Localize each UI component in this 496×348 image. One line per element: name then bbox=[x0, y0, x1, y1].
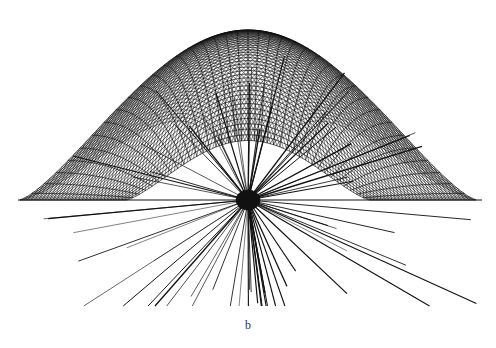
ray bbox=[239, 200, 248, 306]
ray bbox=[84, 200, 248, 306]
ray bbox=[213, 200, 248, 290]
ray bbox=[248, 200, 430, 306]
ray bbox=[248, 200, 471, 220]
ray bbox=[248, 200, 406, 265]
ray bbox=[78, 200, 248, 261]
ray bbox=[191, 200, 248, 297]
ray bbox=[248, 200, 395, 233]
ray bbox=[155, 200, 248, 306]
caustic-mesh-figure bbox=[0, 0, 496, 348]
ray bbox=[132, 177, 248, 200]
panel-label: b bbox=[0, 318, 496, 333]
ray bbox=[123, 200, 248, 306]
ray bbox=[44, 200, 248, 219]
